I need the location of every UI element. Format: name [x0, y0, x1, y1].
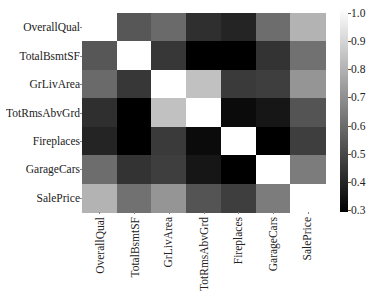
heatmap-cell [186, 13, 222, 42]
colorbar-tick-label: 0.3 [351, 204, 365, 216]
heatmap-cell [186, 98, 222, 127]
heatmap-cell [256, 41, 292, 70]
heatmap-cell [117, 155, 153, 184]
heatmap-cell [186, 41, 222, 70]
heatmap-cell [221, 98, 257, 127]
heatmap-cell [221, 155, 257, 184]
heatmap-cell [290, 127, 326, 156]
heatmap-cell [256, 98, 292, 127]
heatmap-cell [290, 184, 326, 213]
y-tick-mark [80, 169, 82, 170]
heatmap-cell [82, 184, 118, 213]
x-tick-label: SalePrice [301, 217, 315, 260]
x-tick-label: TotalBsmtSF [127, 217, 141, 278]
heatmap-cell [151, 41, 187, 70]
x-tick-label: OverallQual [92, 217, 106, 274]
colorbar-tick-label: 0.6 [351, 120, 365, 132]
heatmap-cell [117, 70, 153, 99]
heatmap-cell [82, 155, 118, 184]
colorbar-tick-label: 0.9 [351, 35, 365, 47]
heatmap-cell [290, 41, 326, 70]
heatmap-cell [186, 155, 222, 184]
y-tick-mark [80, 27, 82, 28]
heatmap-cell [117, 184, 153, 213]
heatmap-cell [186, 70, 222, 99]
heatmap-cell [221, 184, 257, 213]
x-tick-mark [238, 212, 239, 214]
heatmap-cell [151, 70, 187, 99]
x-tick-label: Fireplaces [231, 217, 245, 264]
colorbar-tick-label: 0.8 [351, 63, 365, 75]
y-tick-label: TotRmsAbvGrd [6, 106, 80, 120]
heatmap-cell [221, 41, 257, 70]
y-tick-mark [80, 198, 82, 199]
x-tick-label-wrapper: Fireplaces [231, 217, 245, 297]
heatmap-cell [186, 127, 222, 156]
heatmap-cell [290, 98, 326, 127]
heatmap-cell [117, 127, 153, 156]
heatmap-cell [221, 13, 257, 42]
heatmap-cell [151, 13, 187, 42]
heatmap-cell [117, 98, 153, 127]
y-tick-mark [80, 56, 82, 57]
y-tick-label: GrLivArea [30, 77, 80, 91]
x-tick-mark [134, 212, 135, 214]
x-tick-label-wrapper: GrLivArea [162, 217, 176, 297]
heatmap-cell [256, 13, 292, 42]
heatmap-cell [82, 13, 118, 42]
colorbar-tick-label: 1.0 [351, 7, 365, 19]
colorbar-tick-label: 0.4 [351, 176, 365, 188]
x-tick-label-wrapper: GarageCars [266, 217, 280, 297]
heatmap-cell [151, 127, 187, 156]
x-tick-label-wrapper: TotRmsAbvGrd [197, 217, 211, 297]
correlation-heatmap: OverallQualTotalBsmtSFGrLivAreaTotRmsAbv… [0, 0, 378, 298]
x-tick-label: GarageCars [266, 217, 280, 271]
heatmap-cell [256, 184, 292, 213]
heatmap-cell [82, 127, 118, 156]
y-tick-label: OverallQual [23, 20, 80, 34]
x-tick-mark [204, 212, 205, 214]
heatmap-cell [221, 127, 257, 156]
x-tick-mark [273, 212, 274, 214]
heatmap-cell [221, 70, 257, 99]
colorbar-tick-label: 0.5 [351, 148, 365, 160]
x-tick-label: GrLivArea [162, 217, 176, 267]
colorbar [340, 8, 348, 212]
x-tick-label: TotRmsAbvGrd [197, 217, 211, 291]
x-tick-mark [99, 212, 100, 214]
x-tick-label-wrapper: TotalBsmtSF [127, 217, 141, 297]
y-tick-mark [80, 84, 82, 85]
heatmap-cell [256, 127, 292, 156]
y-tick-label: Fireplaces [33, 134, 80, 148]
x-tick-label-wrapper: SalePrice [301, 217, 315, 297]
heatmap-cell [117, 41, 153, 70]
y-tick-label: GarageCars [26, 162, 80, 176]
x-tick-mark [308, 212, 309, 214]
heatmap-cell [290, 13, 326, 42]
heatmap-cell [151, 155, 187, 184]
heatmap-cell [186, 184, 222, 213]
y-tick-label: TotalBsmtSF [19, 49, 80, 63]
heatmap-cell [82, 98, 118, 127]
y-tick-label: SalePrice [37, 191, 80, 205]
heatmap-cell [290, 70, 326, 99]
heatmap-cell [151, 98, 187, 127]
x-tick-mark [169, 212, 170, 214]
heatmap-cell [82, 70, 118, 99]
colorbar-tick-label: 0.7 [351, 91, 365, 103]
heatmap-cell [151, 184, 187, 213]
x-tick-label-wrapper: OverallQual [92, 217, 106, 297]
heatmap-cell [256, 70, 292, 99]
heatmap-cell [256, 155, 292, 184]
heatmap-cell [290, 155, 326, 184]
heatmap-cell [82, 41, 118, 70]
y-tick-mark [80, 113, 82, 114]
heatmap-cell [117, 13, 153, 42]
y-tick-mark [80, 141, 82, 142]
